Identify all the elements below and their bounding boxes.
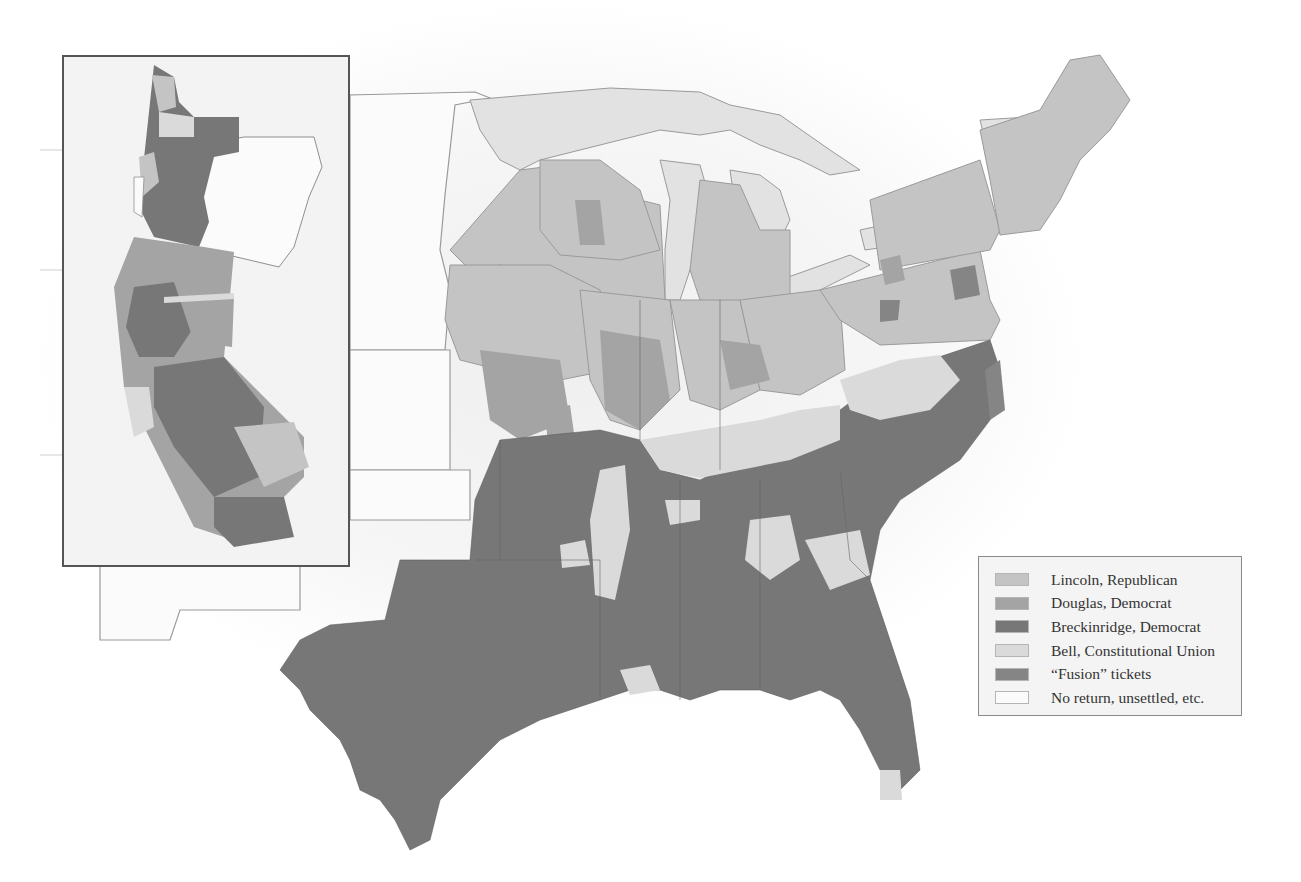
legend-item-no-return: No return, unsettled, etc. bbox=[995, 686, 1241, 710]
legend-swatch bbox=[995, 573, 1029, 586]
map-legend: Lincoln, Republican Douglas, Democrat Br… bbox=[978, 556, 1242, 716]
pacific-coast-inset bbox=[62, 55, 350, 567]
legend-item-douglas: Douglas, Democrat bbox=[995, 592, 1241, 616]
legend-swatch bbox=[995, 644, 1029, 657]
legend-swatch bbox=[995, 668, 1029, 681]
legend-item-lincoln: Lincoln, Republican bbox=[995, 568, 1241, 592]
legend-swatch bbox=[995, 620, 1029, 633]
legend-label: No return, unsettled, etc. bbox=[1051, 689, 1204, 707]
legend-label: “Fusion” tickets bbox=[1051, 665, 1151, 683]
legend-label: Douglas, Democrat bbox=[1051, 594, 1172, 612]
legend-label: Lincoln, Republican bbox=[1051, 571, 1178, 589]
pacific-inset-map bbox=[64, 57, 348, 565]
legend-swatch bbox=[995, 691, 1029, 704]
legend-item-bell: Bell, Constitutional Union bbox=[995, 639, 1241, 663]
legend-label: Bell, Constitutional Union bbox=[1051, 642, 1215, 660]
legend-item-breckinridge: Breckinridge, Democrat bbox=[995, 615, 1241, 639]
legend-swatch bbox=[995, 597, 1029, 610]
legend-item-fusion: “Fusion” tickets bbox=[995, 662, 1241, 686]
legend-label: Breckinridge, Democrat bbox=[1051, 618, 1201, 636]
